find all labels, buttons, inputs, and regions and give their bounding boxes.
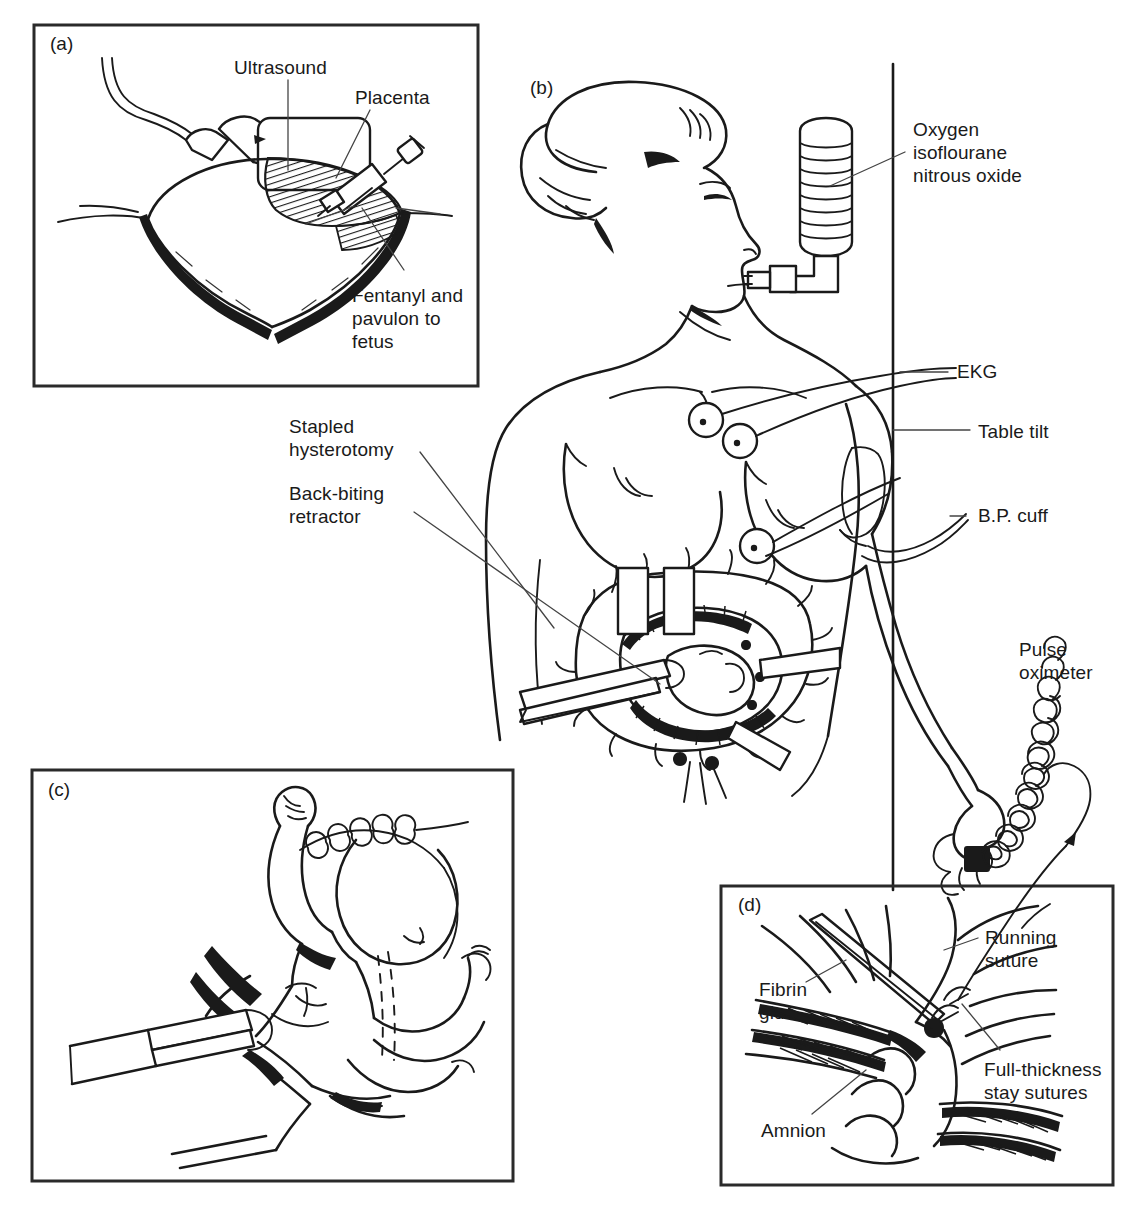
panel-c-artwork bbox=[70, 787, 491, 1168]
panel-tag-d: (d) bbox=[738, 894, 761, 916]
figure-root: .ln { fill:none; stroke:#1a1a1a; stroke-… bbox=[0, 0, 1139, 1210]
suture-thread-extension bbox=[1044, 763, 1090, 846]
label-bp-cuff: B.P. cuff bbox=[978, 504, 1048, 527]
label-stapled-hysterotomy: Stapled hysterotomy bbox=[289, 415, 394, 461]
label-placenta: Placenta bbox=[355, 86, 430, 109]
patient-right-arm bbox=[866, 534, 1004, 895]
panel-c-frame bbox=[32, 770, 513, 1181]
label-oxygen-isoflourane-nitrous-oxide: Oxygen isoflourane nitrous oxide bbox=[913, 118, 1022, 187]
hysterotomy-field bbox=[520, 548, 840, 804]
label-running-suture: Running suture bbox=[985, 926, 1056, 972]
label-back-biting-retractor: Back-biting retractor bbox=[289, 482, 384, 528]
panel-tag-c: (c) bbox=[48, 779, 70, 801]
panel-tag-a: (a) bbox=[50, 33, 73, 55]
label-ultrasound: Ultrasound bbox=[234, 56, 327, 79]
label-ekg: EKG bbox=[957, 360, 997, 383]
patient-face bbox=[680, 168, 759, 340]
label-amnion: Amnion bbox=[761, 1119, 826, 1142]
surgical-cap-icon bbox=[521, 82, 726, 254]
label-fentanyl-pavulon: Fentanyl and pavulon to fetus bbox=[352, 284, 463, 353]
anesthesia-bellows bbox=[744, 118, 852, 292]
label-table-tilt: Table tilt bbox=[978, 420, 1049, 443]
label-fibrin-glue: Fibrin glue bbox=[759, 978, 807, 1024]
ekg-electrodes bbox=[689, 368, 956, 563]
panel-tag-b: (b) bbox=[530, 77, 553, 99]
label-pulse-oximeter: Pulse oximeter bbox=[1019, 638, 1093, 684]
patient-torso bbox=[486, 296, 892, 796]
label-full-thickness-stay-sutures: Full-thickness stay sutures bbox=[984, 1058, 1102, 1104]
